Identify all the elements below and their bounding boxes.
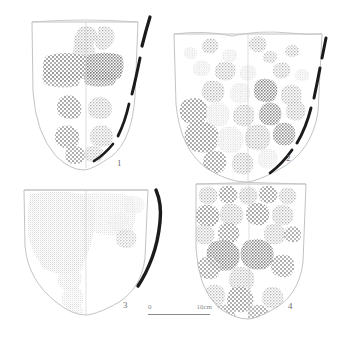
figure-label-2: 2 (286, 153, 291, 163)
scale-bar: 0 10cm (148, 303, 210, 319)
plate-illustration (0, 0, 351, 338)
scale-bar-zero-label: 0 (148, 303, 152, 311)
figure-label-4: 4 (288, 301, 293, 311)
scale-bar-line (148, 314, 210, 315)
vessel-plate: 1 2 3 4 0 10cm (0, 0, 351, 338)
scale-bar-max-label: 10cm (196, 303, 212, 311)
figure-label-1: 1 (117, 158, 122, 168)
figure-label-3: 3 (123, 300, 128, 310)
